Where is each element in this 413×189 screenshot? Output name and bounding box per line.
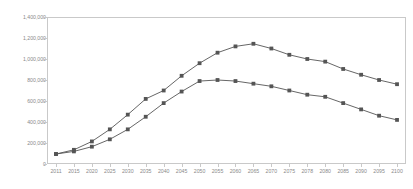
x-tick-mark [343,164,344,167]
x-tick-mark [110,164,111,167]
data-point-marker [162,89,166,93]
series-2 [54,78,399,156]
data-point-marker [323,95,327,99]
data-point-marker [269,84,273,88]
data-point-marker [252,82,256,86]
data-point-marker [108,137,112,141]
data-point-marker [395,118,399,122]
x-tick-mark [218,164,219,167]
x-tick-mark [235,164,236,167]
data-point-marker [269,47,273,51]
x-tick-mark [182,164,183,167]
data-point-marker [341,101,345,105]
data-point-marker [144,97,148,101]
data-point-marker [216,78,220,82]
data-point-marker [126,113,130,117]
data-point-marker [180,90,184,94]
data-point-marker [90,145,94,149]
data-point-marker [162,101,166,105]
x-tick-mark [56,164,57,167]
data-point-marker [359,108,363,112]
x-tick-mark [253,164,254,167]
series-line [56,44,397,154]
data-point-marker [377,114,381,118]
x-tick-mark [397,164,398,167]
x-tick-mark [200,164,201,167]
data-point-marker [359,73,363,77]
data-point-marker [305,57,309,61]
x-tick-mark [92,164,93,167]
x-tick-mark [146,164,147,167]
data-point-marker [198,79,202,83]
data-point-marker [305,93,309,97]
x-tick-mark [307,164,308,167]
data-point-marker [108,127,112,131]
data-point-marker [144,115,148,119]
line-chart: 0200,000400,000600,000800,0001,000,0001,… [0,0,413,189]
x-tick-mark [379,164,380,167]
series-line [56,80,397,154]
x-tick-mark [164,164,165,167]
data-point-marker [234,45,238,49]
x-tick-mark [289,164,290,167]
data-point-marker [395,82,399,86]
x-tick-mark [74,164,75,167]
data-point-marker [72,150,76,154]
series-layer [0,0,413,189]
data-point-marker [180,74,184,78]
data-point-marker [90,140,94,144]
x-tick-mark [325,164,326,167]
data-point-marker [323,60,327,64]
series-1 [54,42,399,156]
data-point-marker [341,67,345,71]
data-point-marker [287,53,291,57]
data-point-marker [216,51,220,55]
data-point-marker [54,152,58,156]
data-point-marker [126,127,130,131]
data-point-marker [198,61,202,65]
data-point-marker [287,89,291,93]
data-point-marker [234,79,238,83]
x-tick-mark [271,164,272,167]
x-tick-mark [361,164,362,167]
x-tick-mark [128,164,129,167]
data-point-marker [377,78,381,82]
data-point-marker [252,42,256,46]
